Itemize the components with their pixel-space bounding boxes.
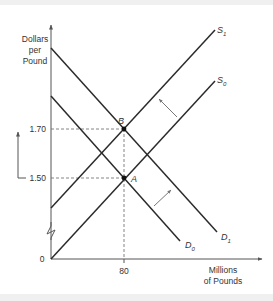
supply-demand-diagram: Dollars per Pound Millions of Pounds 0 1… <box>0 0 273 301</box>
y-tick-label-170: 1.70 <box>29 124 46 134</box>
origin-label: 0 <box>40 254 45 264</box>
x-tick-label-80: 80 <box>119 266 129 276</box>
point-b-label: B <box>118 116 124 126</box>
curve-label-s0: S0 <box>217 75 227 87</box>
curve-label-s1: S1 <box>217 25 226 37</box>
price-change-indicator <box>18 132 26 178</box>
curve-label-d1: D1 <box>221 232 231 244</box>
point-b-marker <box>122 127 127 132</box>
demand-shift-arrow-icon <box>154 190 171 206</box>
point-a-label: A <box>130 174 137 184</box>
y-axis-label-line-2: per <box>29 45 41 55</box>
y-tick-label-150: 1.50 <box>29 173 46 183</box>
x-axis-label-line-1: Millions <box>209 265 237 275</box>
curves <box>51 30 217 259</box>
demand-curve-d1 <box>51 48 217 232</box>
point-a-marker <box>122 176 127 181</box>
curve-label-d0: D0 <box>185 240 196 252</box>
x-axis-label-line-2: of Pounds <box>204 276 242 286</box>
y-axis-label-line-3: Pound <box>23 56 48 66</box>
y-axis-label-line-1: Dollars <box>22 34 48 44</box>
supply-shift-arrow-icon <box>159 99 177 117</box>
axes <box>47 25 262 259</box>
supply-curve-s0 <box>51 81 215 259</box>
